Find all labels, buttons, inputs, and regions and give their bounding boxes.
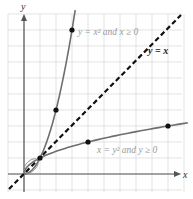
data-point (37, 155, 42, 160)
line-y-equals-x (9, 15, 181, 189)
grid (8, 14, 184, 192)
x-axis-arrow-icon (174, 171, 181, 177)
data-point (53, 107, 58, 112)
label-parabola-up: y = x² and x ≥ 0 (77, 27, 139, 37)
x-axis-label: x (182, 169, 188, 180)
y-axis-label: y (20, 1, 26, 12)
function-inverse-graph: x y y = x² and x ≥ 0 y = x x = y² and y … (0, 0, 193, 199)
y-axis-arrow-icon (21, 14, 27, 21)
data-point (69, 27, 74, 32)
label-diagonal: y = x (147, 45, 168, 56)
data-point (165, 123, 170, 128)
data-point (85, 139, 90, 144)
label-parabola-side: x = y² and y ≥ 0 (96, 145, 158, 155)
